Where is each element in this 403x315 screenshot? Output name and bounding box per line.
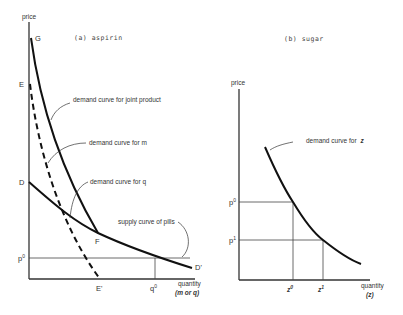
- point-e-label: E: [19, 80, 24, 89]
- p1-label: p1: [229, 235, 236, 245]
- demand-curve-z: [265, 147, 361, 264]
- point-d-label: D: [19, 178, 25, 187]
- point-g-label: G: [35, 34, 41, 43]
- annotation-supply-pills: supply curve of pills: [118, 218, 175, 226]
- panel-b-sugar: (b) sugar price p0 p1 z0 z1 demand curve…: [229, 35, 385, 299]
- p0-label: p0: [229, 197, 236, 207]
- panel-a-x-axis-label: quantity: [178, 280, 202, 288]
- p0-label: p0: [18, 253, 25, 263]
- point-d-prime-label: D': [195, 263, 202, 272]
- panel-a-title: (a) aspirin: [74, 34, 123, 42]
- arrow-joint-product-icon: [51, 103, 70, 120]
- q0-label: q0: [150, 283, 157, 293]
- arrow-demand-q-icon: [70, 182, 88, 218]
- arrow-demand-m-icon: [48, 143, 86, 163]
- panel-b-title: (b) sugar: [284, 35, 324, 43]
- demand-curve-q: [29, 182, 192, 268]
- diagram-canvas: (a) aspirin price G E D F E' D' p0 q0 de…: [0, 0, 403, 315]
- panel-a-x-axis-sublabel: (m or q): [175, 289, 199, 297]
- annotation-demand-q: demand curve for q: [90, 178, 146, 186]
- annotation-demand-joint-product: demand curve for joint product: [73, 96, 161, 104]
- arrow-supply-icon: [178, 222, 188, 257]
- arrow-demand-z-icon: [270, 142, 293, 150]
- panel-a-y-axis-label: price: [22, 13, 36, 21]
- point-e-prime-label: E': [96, 284, 103, 293]
- demand-curve-joint-product: [31, 38, 98, 233]
- annotation-demand-z: demand curve forz: [306, 137, 365, 144]
- panel-a-aspirin: (a) aspirin price G E D F E' D' p0 q0 de…: [18, 13, 202, 297]
- annotation-demand-m: demand curve for m: [89, 139, 147, 146]
- panel-b-y-axis-label: price: [231, 79, 245, 87]
- z1-label: z1: [317, 284, 324, 293]
- point-f-label: F: [95, 237, 100, 246]
- z0-label: z0: [286, 284, 293, 293]
- panel-b-x-axis-sublabel: (z): [366, 291, 374, 299]
- panel-b-x-axis-label: quantity: [361, 282, 385, 290]
